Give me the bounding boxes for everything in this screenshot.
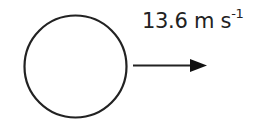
velocity-unit-exponent: -1 xyxy=(231,6,243,21)
velocity-value: 13.6 xyxy=(142,9,188,33)
velocity-arrow-head xyxy=(190,59,207,72)
velocity-label: 13.6 m s-1 xyxy=(142,8,244,33)
velocity-unit: m s xyxy=(194,9,231,33)
velocity-diagram: 13.6 m s-1 xyxy=(0,0,270,127)
ball-circle xyxy=(25,16,127,118)
